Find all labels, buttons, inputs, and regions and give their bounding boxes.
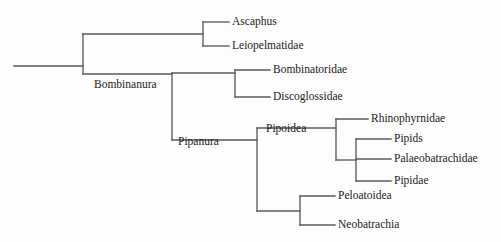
tip-label-leiopelmatidae: Leiopelmatidae [232,40,304,52]
tip-label-peloatoidea: Peloatoidea [338,190,392,202]
tip-label-ascaphus: Ascaphus [232,16,277,28]
cladogram-figure: Ascaphus Leiopelmatidae Bombinatoridae D… [0,0,501,242]
clade-label-bombinanura: Bombinanura [94,79,157,91]
clade-label-pipanura: Pipanura [178,136,219,148]
clade-label-pipoidea: Pipoidea [266,123,306,135]
tip-label-palaeobatrachidae: Palaeobatrachidae [394,153,478,165]
tip-label-neobatrachia: Neobatrachia [338,219,399,231]
tip-label-rhinophyrnidae: Rhinophyrnidae [371,113,445,125]
tip-label-pipidae: Pipidae [394,175,429,187]
tip-label-discoglossidae: Discoglossidae [273,91,343,103]
tip-label-bombinatoridae: Bombinatoridae [273,64,347,76]
tip-label-pipids: Pipids [394,133,423,145]
